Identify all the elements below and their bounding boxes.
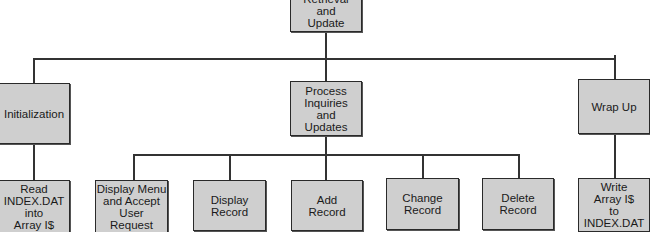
box-retrieval-and-update: Retrieval and Update — [290, 0, 362, 32]
box-add-record: Add Record — [291, 180, 363, 231]
connector-root-down — [325, 30, 327, 59]
box-change-record: Change Record — [386, 178, 459, 230]
connector-to-add-record — [325, 154, 327, 180]
box-read-index-dat: Read INDEX.DAT into Array I$ — [0, 180, 70, 232]
connector-level1-bar — [33, 58, 615, 60]
connector-to-wrapup — [614, 55, 616, 80]
connector-to-display-menu — [133, 154, 135, 180]
box-write-array-to-index-dat: Write Array I$ to INDEX.DAT — [578, 178, 650, 232]
box-display-record: Display Record — [193, 180, 266, 231]
connector-wrapup-to-write — [614, 133, 616, 179]
connector-to-process — [325, 58, 327, 82]
box-wrap-up: Wrap Up — [578, 79, 650, 134]
connector-init-to-read — [33, 143, 35, 180]
connector-to-initialization — [33, 58, 35, 84]
connector-to-delete-record — [518, 154, 520, 180]
box-display-menu-accept-request: Display Menu and Accept User Request — [95, 180, 168, 232]
box-process-inquiries-and-updates: Process Inquiries and Updates — [290, 81, 362, 136]
box-delete-record: Delete Record — [482, 178, 554, 230]
connector-to-display-record — [229, 154, 231, 180]
box-initialization: Initialization — [0, 83, 70, 144]
connector-process-down — [325, 135, 327, 155]
connector-to-change-record — [422, 154, 424, 180]
